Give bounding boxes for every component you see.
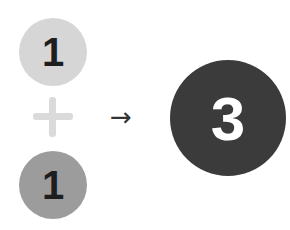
arrow-right-icon: →	[110, 104, 144, 130]
result-label: 3	[211, 83, 245, 154]
result-circle: 3	[170, 60, 286, 176]
operand-b-circle: 1	[19, 151, 87, 219]
operand-a-circle: 1	[19, 18, 87, 86]
operand-b-label: 1	[42, 163, 64, 208]
plus-icon	[33, 97, 73, 137]
operand-a-label: 1	[42, 30, 64, 75]
